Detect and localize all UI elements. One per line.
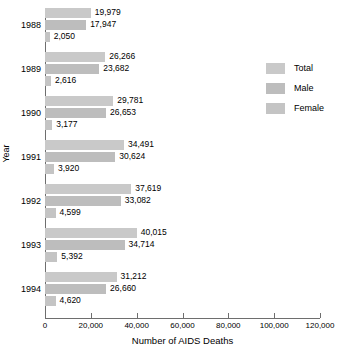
bar-row: 4,620 [45, 296, 320, 306]
y-axis-tick-labels: 1988198919901991199219931994 [0, 0, 41, 355]
x-axis-title: Number of AIDS Deaths [45, 335, 320, 347]
bar-total-1990[interactable] [45, 96, 113, 106]
bar-value-label: 3,920 [58, 163, 79, 174]
bar-row: 26,660 [45, 284, 320, 294]
bar-value-label: 4,620 [60, 295, 81, 306]
bar-value-label: 26,660 [110, 283, 136, 294]
bar-group: 34,49130,6243,920 [45, 140, 320, 176]
bar-value-label: 2,050 [54, 31, 75, 42]
legend-label: Total [294, 63, 313, 74]
bar-value-label: 3,177 [56, 119, 77, 130]
legend-item-female[interactable]: Female [266, 100, 340, 116]
bar-value-label: 19,979 [95, 7, 121, 18]
y-axis-tick-label-1994: 1994 [21, 284, 41, 295]
y-axis-tick-label-1992: 1992 [21, 196, 41, 207]
bar-row: 33,082 [45, 196, 320, 206]
y-axis-tick-label-1990: 1990 [21, 108, 41, 119]
legend-swatch-male [266, 83, 285, 94]
legend-label: Female [294, 103, 324, 114]
y-axis-tick-label-1989: 1989 [21, 64, 41, 75]
bar-value-label: 34,491 [128, 139, 154, 150]
bar-female-1988[interactable] [45, 32, 50, 42]
x-axis-line [45, 318, 320, 319]
legend-swatch-total [266, 63, 285, 74]
bar-value-label: 5,392 [61, 251, 82, 262]
bar-row: 40,015 [45, 228, 320, 238]
bar-row: 3,920 [45, 164, 320, 174]
bar-total-1991[interactable] [45, 140, 124, 150]
x-axis-tick-label: 80,000 [216, 321, 240, 331]
bar-value-label: 30,624 [119, 151, 145, 162]
bar-total-1989[interactable] [45, 52, 105, 62]
bar-male-1990[interactable] [45, 108, 106, 118]
bar-row: 5,392 [45, 252, 320, 262]
x-axis-tick [320, 313, 321, 318]
bar-value-label: 26,653 [110, 107, 136, 118]
aids-deaths-bar-chart: Year 1988198919901991199219931994 020,00… [0, 0, 340, 355]
bar-total-1994[interactable] [45, 272, 117, 282]
bar-group: 37,61933,0824,599 [45, 184, 320, 220]
bar-row: 3,177 [45, 120, 320, 130]
x-axis-tick-label: 120,000 [306, 321, 335, 331]
bar-value-label: 34,714 [129, 239, 155, 250]
legend: TotalMaleFemale [266, 60, 340, 120]
bar-total-1993[interactable] [45, 228, 137, 238]
bar-male-1991[interactable] [45, 152, 115, 162]
bar-value-label: 37,619 [135, 183, 161, 194]
x-axis-tick-label: 20,000 [79, 321, 103, 331]
bar-female-1994[interactable] [45, 296, 56, 306]
bar-value-label: 31,212 [121, 271, 147, 282]
legend-item-male[interactable]: Male [266, 80, 340, 96]
bar-female-1991[interactable] [45, 164, 54, 174]
bar-group: 40,01534,7145,392 [45, 228, 320, 264]
bar-row: 31,212 [45, 272, 320, 282]
bar-row: 19,979 [45, 8, 320, 18]
x-axis-tick-label: 60,000 [170, 321, 194, 331]
bar-total-1992[interactable] [45, 184, 131, 194]
bar-total-1988[interactable] [45, 8, 91, 18]
legend-item-total[interactable]: Total [266, 60, 340, 76]
bar-value-label: 2,616 [55, 75, 76, 86]
bar-group: 19,97917,9472,050 [45, 8, 320, 44]
y-axis-tick-label-1991: 1991 [21, 152, 41, 163]
legend-label: Male [294, 83, 314, 94]
bar-row: 30,624 [45, 152, 320, 162]
bar-row: 34,714 [45, 240, 320, 250]
bar-value-label: 40,015 [141, 227, 167, 238]
bar-male-1989[interactable] [45, 64, 99, 74]
bar-male-1992[interactable] [45, 196, 121, 206]
bar-row: 4,599 [45, 208, 320, 218]
x-axis-tick-label: 40,000 [124, 321, 148, 331]
y-axis-tick-label-1988: 1988 [21, 20, 41, 31]
bar-value-label: 33,082 [125, 195, 151, 206]
bar-row: 2,050 [45, 32, 320, 42]
x-axis-tick-label: 100,000 [260, 321, 289, 331]
bar-female-1992[interactable] [45, 208, 56, 218]
bar-male-1994[interactable] [45, 284, 106, 294]
bar-female-1993[interactable] [45, 252, 57, 262]
bar-female-1989[interactable] [45, 76, 51, 86]
bar-value-label: 23,682 [103, 63, 129, 74]
bar-row: 37,619 [45, 184, 320, 194]
plot-area: 19,97917,9472,05026,26623,6822,61629,781… [45, 8, 320, 318]
y-axis-tick-label-1993: 1993 [21, 240, 41, 251]
bar-row: 34,491 [45, 140, 320, 150]
bar-male-1993[interactable] [45, 240, 125, 250]
bar-value-label: 4,599 [60, 207, 81, 218]
bar-female-1990[interactable] [45, 120, 52, 130]
bar-row: 17,947 [45, 20, 320, 30]
bar-male-1988[interactable] [45, 20, 86, 30]
x-axis-tick-label: 0 [43, 321, 47, 331]
bar-value-label: 26,266 [109, 51, 135, 62]
legend-swatch-female [266, 103, 285, 114]
bar-value-label: 17,947 [90, 19, 116, 30]
bar-value-label: 29,781 [117, 95, 143, 106]
bar-group: 31,21226,6604,620 [45, 272, 320, 308]
